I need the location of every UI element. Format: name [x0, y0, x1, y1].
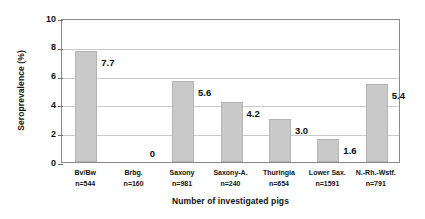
- bar-bv-bw: [75, 51, 97, 162]
- value-label-5: 1.6: [343, 146, 356, 156]
- category-name: Lower Sax.: [309, 169, 346, 176]
- y-axis-tick: [58, 164, 63, 165]
- y-tick-label-4: 4: [10, 101, 56, 110]
- y-axis-tick: [58, 135, 63, 136]
- y-tick-label-6: 6: [10, 72, 56, 81]
- value-label-2: 5.6: [198, 88, 211, 98]
- category-name: Bv/Bw: [75, 169, 96, 176]
- y-tick-label-0: 0: [10, 159, 56, 168]
- category-name: Thuringia: [263, 169, 295, 176]
- gridline: [62, 49, 399, 50]
- plot-area: [61, 19, 400, 163]
- x-axis-title: Number of investigated pigs: [61, 196, 400, 206]
- value-label-1: 0: [150, 149, 155, 159]
- bar-lower-sax: [317, 139, 339, 162]
- y-tick-label-8: 8: [10, 43, 56, 52]
- y-tick-label-2: 2: [10, 130, 56, 139]
- chart-figure: Seroprevalence (%) 0 2 4 6 8 10 7.705.64…: [0, 0, 425, 219]
- y-axis-tick: [58, 49, 63, 50]
- value-label-4: 3.0: [295, 126, 308, 136]
- value-label-3: 4.2: [247, 109, 260, 119]
- gridline: [62, 78, 399, 79]
- bar-saxony: [172, 81, 194, 162]
- y-axis-title: Seroprevalence (%): [14, 18, 28, 163]
- y-axis-tick: [58, 106, 63, 107]
- category-name: Saxony-A.: [213, 169, 247, 176]
- category-sample-size: n=791: [345, 179, 407, 190]
- category-name: Brbg.: [125, 169, 143, 176]
- category-name: Saxony: [170, 169, 195, 176]
- y-tick-label-10: 10: [10, 15, 56, 24]
- category-name: N.-Rh.-Wstf.: [356, 169, 396, 176]
- y-axis-tick: [58, 78, 63, 79]
- bar-thuringia: [269, 119, 291, 162]
- category-label-6: N.-Rh.-Wstf.n=791: [345, 168, 407, 189]
- value-label-6: 5.4: [392, 91, 405, 101]
- bar-saxony-a: [221, 102, 243, 162]
- y-axis-tick: [58, 20, 63, 21]
- value-label-0: 7.7: [101, 58, 114, 68]
- bar-n-rh-wstf: [366, 84, 388, 162]
